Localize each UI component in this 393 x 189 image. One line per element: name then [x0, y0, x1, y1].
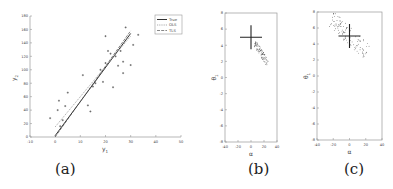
x-tick-label: 10 — [78, 140, 83, 144]
sample-point — [257, 43, 258, 44]
x-tick-label: 40 — [275, 145, 280, 149]
x-tick-label: 20 — [103, 140, 108, 144]
sample-point — [360, 41, 361, 42]
sample-point — [363, 50, 364, 51]
sample-point — [337, 16, 338, 17]
sample-point — [332, 17, 333, 18]
x-axis-label: α — [249, 150, 253, 157]
sample-point — [336, 23, 337, 24]
x-tick-label: 20 — [363, 143, 368, 147]
sample-point — [257, 49, 258, 50]
data-point — [58, 100, 60, 102]
sample-point — [261, 54, 262, 55]
sample-point — [345, 23, 346, 24]
y-tick-label: 20 — [23, 122, 28, 126]
sample-point — [339, 32, 340, 33]
sample-point — [255, 45, 256, 46]
data-point — [125, 26, 127, 28]
sample-point — [334, 30, 335, 31]
sample-point — [268, 61, 269, 62]
data-point — [87, 104, 89, 106]
sample-point — [341, 31, 342, 32]
data-point — [122, 61, 124, 63]
sample-point — [262, 53, 263, 54]
sample-point — [358, 44, 359, 45]
y-tick-label: -2 — [311, 90, 315, 94]
sample-point — [263, 58, 264, 59]
sample-point — [332, 20, 333, 21]
x-tick-label: 0 — [250, 145, 253, 149]
sample-point — [258, 45, 259, 46]
sample-point — [344, 32, 345, 33]
y-tick-label: 0 — [26, 135, 29, 139]
sample-point — [254, 46, 255, 47]
sample-point — [266, 59, 267, 60]
sample-point — [260, 50, 261, 51]
sample-point — [263, 54, 264, 55]
y-tick-label: 0 — [313, 74, 316, 78]
sample-point — [266, 64, 267, 65]
x-axis-label: y1 — [102, 145, 109, 154]
y-tick-label: -8 — [219, 140, 223, 144]
data-point — [120, 50, 122, 52]
data-point — [122, 72, 124, 74]
sample-point — [345, 37, 346, 38]
y-tick-label: -6 — [219, 124, 223, 128]
x-tick-label: 0 — [348, 143, 351, 147]
sample-point — [356, 46, 357, 47]
sample-point — [363, 55, 364, 56]
sample-point — [263, 61, 264, 62]
sample-point — [340, 24, 341, 25]
sample-point — [357, 51, 358, 52]
data-point — [62, 119, 64, 121]
sample-point — [335, 13, 336, 14]
caption-a: (a) — [55, 160, 76, 178]
line-true — [55, 33, 131, 135]
sample-point — [343, 39, 344, 40]
caption-b: (b) — [248, 160, 269, 178]
data-point — [137, 34, 139, 36]
y-tick-label: 100 — [21, 68, 29, 72]
sample-point — [338, 30, 339, 31]
y-axis-label: θ1 — [210, 74, 219, 81]
caption-c: (c) — [344, 160, 364, 178]
sample-point — [333, 25, 334, 26]
panel-b: -40-2002040-8-6-4-202468αθ1 (b) — [200, 0, 300, 189]
y-tick-label: 8 — [313, 10, 316, 14]
y-tick-label: 4 — [313, 42, 316, 46]
sample-point — [256, 42, 257, 43]
data-point — [59, 125, 61, 127]
x-tick-label: 0 — [54, 140, 57, 144]
sample-point — [363, 49, 364, 50]
sample-point — [258, 50, 259, 51]
line-ols — [55, 36, 131, 127]
legend: TrueOLSTLS — [155, 15, 182, 34]
sample-point — [366, 52, 367, 53]
sample-point — [350, 44, 351, 45]
true-value-cross — [339, 24, 361, 48]
x-tick-label: -10 — [27, 140, 34, 144]
sample-point — [343, 26, 344, 27]
sample-point — [347, 42, 348, 43]
y-tick-label: 4 — [221, 44, 224, 48]
y-tick-label: 160 — [21, 28, 29, 32]
sample-point — [345, 38, 346, 39]
sample-point — [350, 45, 351, 46]
sample-point — [360, 47, 361, 48]
sample-point — [259, 51, 260, 52]
sample-point — [257, 44, 258, 45]
x-tick-label: -40 — [314, 143, 321, 147]
data-point — [57, 109, 59, 111]
sample-point — [334, 16, 335, 17]
line-tls — [55, 31, 131, 137]
sample-point — [363, 57, 364, 58]
sample-point — [338, 26, 339, 27]
sample-point — [342, 30, 343, 31]
sample-point — [343, 39, 344, 40]
sample-point — [265, 64, 266, 65]
y-tick-label: -6 — [311, 122, 315, 126]
data-point — [112, 86, 114, 88]
sample-point — [266, 63, 267, 64]
sample-point — [261, 54, 262, 55]
sample-point — [342, 21, 343, 22]
